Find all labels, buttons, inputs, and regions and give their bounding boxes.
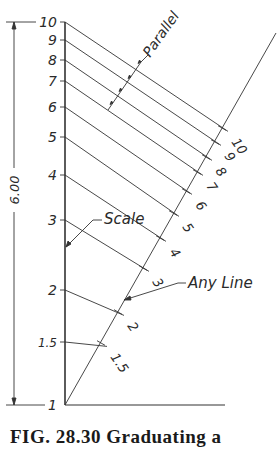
arrow-down-icon (12, 398, 16, 405)
scale-label: 10 (39, 14, 57, 30)
any-line-label: 3 (150, 275, 167, 290)
any-line (65, 33, 276, 405)
parallel-line (65, 60, 212, 160)
any-line-label: 7 (204, 179, 221, 195)
scale-label: 8 (48, 52, 57, 68)
any-line-label: 4 (167, 245, 184, 260)
scale-label: 4 (48, 167, 57, 183)
parallel-line (65, 175, 166, 241)
any-line-label: 9 (222, 149, 239, 164)
scale-label-text: Scale (104, 210, 144, 228)
parallel-label: Parallel (139, 8, 182, 60)
parallel-line (65, 290, 124, 315)
scale-label: 1.5 (38, 336, 57, 350)
any-line-label-text: Any Line (187, 274, 253, 292)
any-line-tick (156, 236, 164, 241)
scale-label: 9 (48, 32, 57, 48)
scale-labels: 6.00101099887766554433221.51.51ParallelS… (7, 8, 253, 413)
any-line-tick (202, 155, 210, 160)
any-line-tick (218, 126, 226, 131)
arrow-up-icon (12, 22, 16, 29)
any-line-label: 1.5 (108, 350, 132, 376)
scale-label: 7 (48, 73, 57, 89)
scale-label: 3 (48, 212, 57, 228)
any-line-label: 8 (213, 164, 230, 179)
parallel-line (65, 40, 221, 145)
any-line-tick (182, 189, 190, 194)
scale-label: 2 (48, 282, 57, 298)
any-line-tick (193, 170, 201, 175)
scale-label: 6 (48, 99, 57, 115)
figure-caption: FIG. 28.30 Graduating a (10, 426, 222, 448)
any-line-tick (139, 266, 147, 271)
parallel-line (65, 81, 203, 175)
dimension-label: 6.00 (7, 176, 22, 205)
arrow-icon (124, 296, 131, 300)
any-line-label: 6 (193, 198, 210, 213)
parallel-line (65, 137, 179, 216)
any-line-label: 2 (125, 319, 142, 334)
scale-label: 1 (48, 397, 57, 413)
any-line-label: 5 (180, 220, 197, 235)
scale-label: 5 (48, 129, 57, 145)
graduating-scale-diagram: 6.00101099887766554433221.51.51ParallelS… (0, 0, 277, 449)
arrow-icon (66, 241, 71, 247)
